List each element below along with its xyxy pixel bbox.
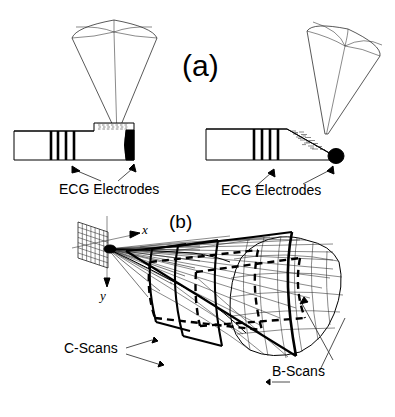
b-scans-label: B-Scans	[272, 363, 325, 379]
panel-b-label: (b)	[169, 211, 192, 232]
phased-array-grid	[78, 222, 108, 268]
left-beam-sector	[72, 20, 157, 131]
axis-x-label: x	[141, 222, 148, 237]
axis-y-label: y	[98, 288, 106, 303]
right-ecg-annotation: ECG Electrodes	[221, 166, 334, 198]
left-ecg-label: ECG Electrodes	[59, 181, 159, 197]
c-scans-annotation: C-Scans	[64, 337, 164, 367]
figure-root: ECG Electrodes (a)	[0, 0, 395, 417]
array-face-speckle	[97, 124, 128, 132]
c-scans-label: C-Scans	[64, 340, 118, 356]
panel-a-label: (a)	[182, 49, 219, 82]
right-beam-sector	[307, 22, 382, 134]
scan-volume-far-face	[230, 236, 343, 358]
ultrasound-transducer-figure: ECG Electrodes (a)	[0, 0, 395, 417]
left-ecg-annotation: ECG Electrodes	[59, 164, 159, 197]
right-ecg-label: ECG Electrodes	[221, 182, 321, 198]
right-transducer-body	[206, 129, 344, 164]
panel-a-group: ECG Electrodes (a)	[14, 20, 382, 198]
c-scan-planes-dashed	[149, 250, 305, 330]
b-scans-annotation: B-Scans	[266, 297, 345, 385]
left-transducer-body	[14, 123, 134, 160]
panel-b-group: (b) y x	[64, 211, 345, 385]
